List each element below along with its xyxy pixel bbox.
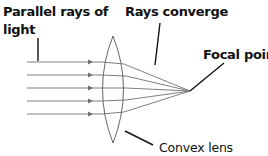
label-parallel-rays: Parallel rays of — [3, 4, 108, 19]
incoming-rays — [27, 62, 190, 114]
ray-arrowheads — [88, 60, 93, 117]
lens-diagram: Parallel rays of light Rays converge Foc… — [0, 0, 268, 156]
label-rays-converge: Rays converge — [125, 4, 228, 19]
diagram-graphics — [0, 0, 268, 156]
convex-lens-shape — [103, 36, 124, 143]
label-convex-lens: Convex lens — [159, 140, 233, 155]
leader-lines — [38, 23, 224, 145]
label-focal-point: Focal point — [203, 47, 268, 62]
label-light: light — [3, 22, 35, 37]
